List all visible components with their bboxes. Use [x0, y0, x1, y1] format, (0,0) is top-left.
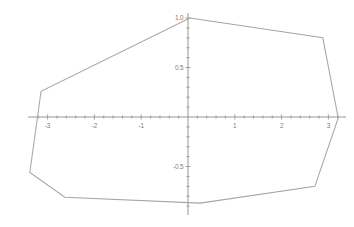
x-tick-label: 1	[233, 122, 237, 129]
y-tick-label: -0.5	[173, 163, 184, 170]
axes-group	[28, 13, 346, 215]
y-tick-label: 1.0	[175, 14, 184, 21]
x-tick-label: -1	[139, 122, 145, 129]
y-axis-tick-labels: 1.00.5-0.5	[173, 14, 184, 170]
x-tick-label: -2	[92, 122, 98, 129]
x-tick-label: 2	[280, 122, 284, 129]
x-tick-label: 3	[327, 122, 331, 129]
plot-figure: -3-2-1123 1.00.5-0.5	[0, 0, 354, 227]
plot-canvas: -3-2-1123 1.00.5-0.5	[0, 0, 354, 227]
y-tick-label: 0.5	[175, 64, 184, 71]
x-tick-label: -3	[45, 122, 51, 129]
data-polygon	[30, 18, 338, 203]
